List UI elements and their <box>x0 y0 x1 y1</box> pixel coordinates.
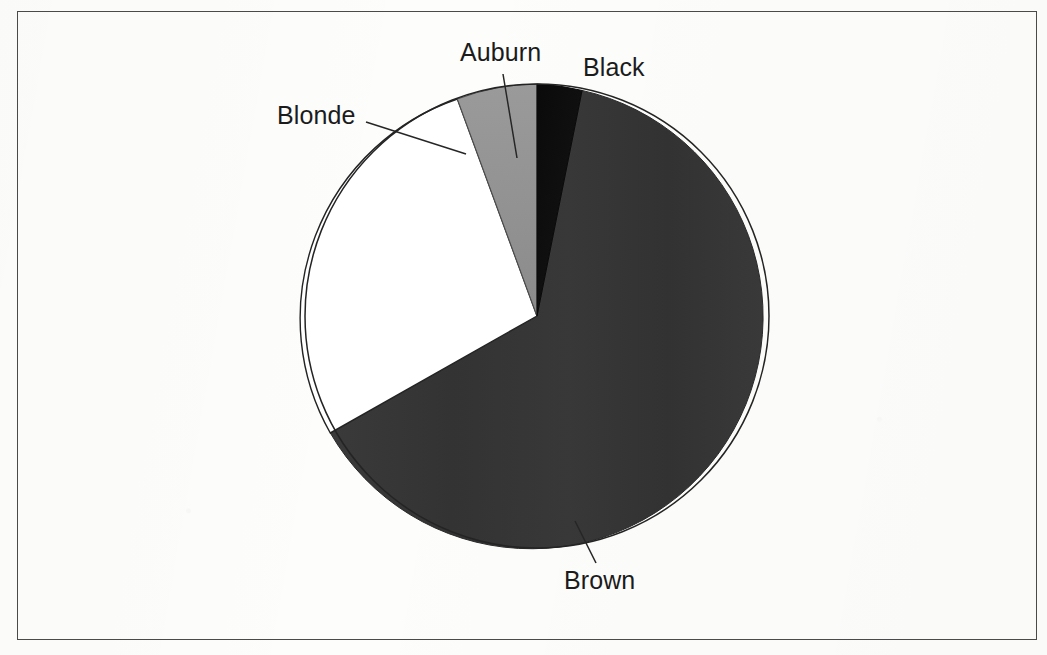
pie-label-brown: Brown <box>564 568 635 593</box>
pie-label-blonde: Blonde <box>277 103 355 128</box>
pie-label-black: Black <box>583 55 645 80</box>
pie-label-auburn: Auburn <box>460 40 541 65</box>
figure-page: Auburn Black Blonde Brown <box>0 0 1047 655</box>
pie-chart: Auburn Black Blonde Brown <box>0 0 1047 655</box>
pie-chart-svg <box>0 0 1047 655</box>
